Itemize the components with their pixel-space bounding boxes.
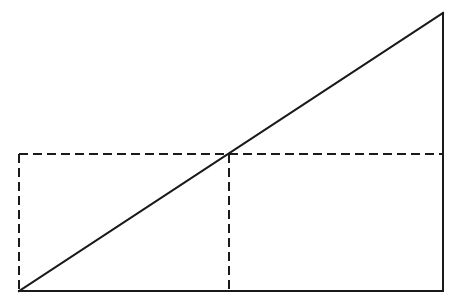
solid-lines — [19, 13, 443, 291]
hypotenuse-solid-line — [19, 13, 443, 291]
dashed-lines — [19, 154, 443, 291]
right-triangle-diagram — [0, 0, 460, 307]
